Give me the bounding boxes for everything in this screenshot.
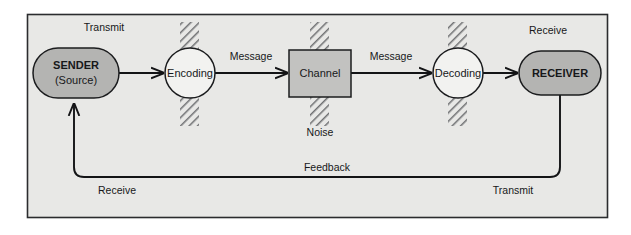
sender-label-line2: (Source) [55, 74, 97, 86]
label-receive-top: Receive [529, 24, 567, 36]
channel-label: Channel [300, 67, 341, 79]
label-receive-bottom: Receive [98, 184, 136, 196]
diagram-root: SENDER (Source) Encoding Channel Decodin… [0, 0, 631, 235]
label-transmit-top: Transmit [84, 21, 125, 33]
label-transmit-bottom: Transmit [493, 184, 534, 196]
label-message-left: Message [230, 50, 273, 62]
label-noise: Noise [307, 126, 334, 138]
decoding-label: Decoding [435, 67, 481, 79]
label-message-right: Message [370, 50, 413, 62]
sender-label-line1: SENDER [53, 59, 99, 71]
encoding-label: Encoding [167, 67, 213, 79]
receiver-label: RECEIVER [532, 67, 588, 79]
label-feedback: Feedback [304, 161, 351, 173]
communication-model-diagram: SENDER (Source) Encoding Channel Decodin… [0, 0, 631, 235]
